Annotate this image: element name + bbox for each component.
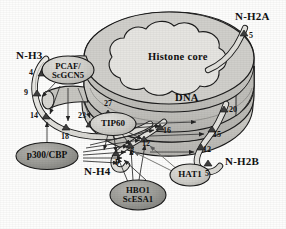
enzyme-label-hbo1: HBO1 ScESA1 [112,186,164,204]
enzyme-label-hat1: HAT1 [172,170,208,179]
site-label-h3-18: 18 [61,133,69,141]
site-label-h2a-5: 5 [249,32,253,40]
site-label-h2b-12: 12 [203,146,211,154]
site-label-h4-12: 12 [142,140,150,148]
enzyme-label-pcaf-line2: ScGCN5 [44,71,92,80]
enzyme-label-p300-line1: p300/CBP [17,151,77,161]
label-tail-h4: N-H4 [84,166,110,177]
site-label-h3-9: 9 [24,89,28,97]
enzyme-label-tip60-line1: TIP60 [91,119,135,128]
site-label-h4-8: 8 [130,148,134,156]
enzyme-label-hat1-line1: HAT1 [172,170,208,179]
site-label-h3-23: 23 [78,112,86,120]
enzyme-label-pcaf: PCAF/ ScGCN5 [44,62,92,80]
arrow-hbo1-h4-b [124,160,146,180]
site-label-h2b-15: 15 [213,131,221,139]
site-label-h4-5: 5 [115,159,119,167]
enzyme-label-p300: p300/CBP [17,151,77,161]
site-label-h2b-20: 20 [229,106,237,114]
site-label-h3-14: 14 [30,112,38,120]
site-label-h3-27: 27 [104,100,112,108]
label-tail-h2b: N-H2B [225,156,259,167]
enzyme-label-hbo1-line2: ScESA1 [112,195,164,204]
site-label-h4-16: 16 [163,127,171,135]
nucleosome-diagram: Histone core DNA N-H3 N-H4 N-H2A N-H2B 4… [0,0,286,229]
site-label-h3-4: 4 [29,69,33,77]
label-tail-h3: N-H3 [16,50,42,61]
label-dna: DNA [175,93,199,104]
label-tail-h2a: N-H2A [235,11,270,22]
label-histone-core: Histone core [148,52,208,63]
site-marker-h2b-5 [204,160,212,166]
enzyme-label-tip60: TIP60 [91,119,135,128]
